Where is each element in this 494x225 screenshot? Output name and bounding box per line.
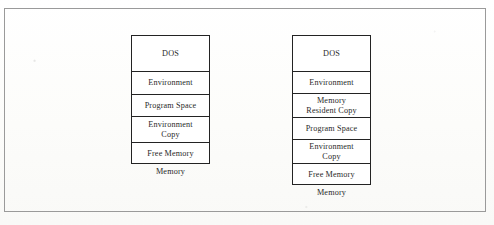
memory-region-label: Free Memory bbox=[147, 149, 193, 158]
memory-region-environment: Environment bbox=[293, 72, 370, 94]
memory-map-after-caption: Memory bbox=[292, 188, 371, 197]
memory-region-label: Environment Copy bbox=[309, 142, 353, 160]
memory-region-free-memory: Free Memory bbox=[293, 164, 370, 186]
memory-region-dos: DOS bbox=[293, 36, 370, 72]
memory-map-after-box: DOS Environment Memory Resident Copy Pro… bbox=[292, 35, 371, 185]
memory-region-environment-copy: Environment Copy bbox=[293, 140, 370, 164]
figure-border-frame bbox=[4, 8, 486, 212]
memory-region-program-space: Program Space bbox=[293, 118, 370, 140]
memory-map-before-caption: Memory bbox=[131, 167, 210, 176]
memory-region-dos: DOS bbox=[132, 36, 209, 72]
memory-region-label: Environment bbox=[309, 78, 353, 87]
memory-region-free-memory: Free Memory bbox=[132, 143, 209, 165]
memory-region-label: Program Space bbox=[306, 124, 358, 133]
memory-region-label: DOS bbox=[162, 49, 179, 58]
figure-root: DOS Environment Program Space Environmen… bbox=[0, 0, 494, 225]
memory-map-before-box: DOS Environment Program Space Environmen… bbox=[131, 35, 210, 164]
memory-region-label: Program Space bbox=[145, 101, 197, 110]
memory-region-label: Environment Copy bbox=[148, 120, 192, 138]
memory-map-before: DOS Environment Program Space Environmen… bbox=[131, 35, 210, 176]
memory-region-program-space: Program Space bbox=[132, 95, 209, 117]
memory-region-label: Free Memory bbox=[308, 170, 354, 179]
memory-region-environment-copy: Environment Copy bbox=[132, 117, 209, 143]
memory-map-after: DOS Environment Memory Resident Copy Pro… bbox=[292, 35, 371, 197]
memory-region-memory-resident-copy: Memory Resident Copy bbox=[293, 94, 370, 118]
memory-region-environment: Environment bbox=[132, 72, 209, 95]
memory-region-label: DOS bbox=[323, 49, 340, 58]
memory-region-label: Memory Resident Copy bbox=[306, 96, 356, 114]
memory-region-label: Environment bbox=[148, 78, 192, 87]
